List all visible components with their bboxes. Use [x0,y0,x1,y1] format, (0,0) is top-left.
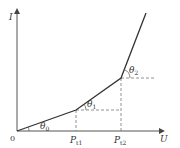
angle-arc-1 [84,104,86,110]
origin-label: 0 [10,134,15,143]
angle-arc-0 [28,127,29,131]
angle-label-theta2: θ2 [129,65,138,76]
iu-diagram: I U 0 Pt1 Pt2 θ0 θ1 θ2 [0,0,180,148]
angle-label-theta1: θ1 [87,99,96,110]
x-axis-label: U [160,134,168,144]
tick-label-p2: Pt2 [113,135,126,146]
angle-label-theta0: θ0 [40,121,49,132]
tick-label-p1: Pt1 [69,135,82,146]
y-axis-label: I [8,12,13,22]
characteristic-curve [17,13,146,131]
